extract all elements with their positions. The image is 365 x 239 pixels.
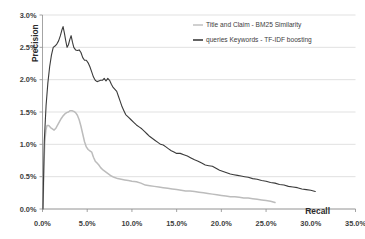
axes-group — [40, 15, 356, 212]
series-line-1 — [43, 27, 315, 209]
y-tick-label-4: 2.0% — [20, 75, 37, 84]
x-tick-labels-group: 0.0%5.0%10.0%15.0%20.0%25.0%30.0%35.0% — [34, 219, 365, 228]
legend-label-0: Title and Claim - BM25 Similarity — [206, 21, 302, 29]
series-group — [43, 27, 315, 209]
x-tick-label-6: 30.0% — [300, 219, 321, 228]
legend-label-1: queries Keywords - TF-IDF boosting — [206, 36, 312, 44]
y-tick-label-6: 3.0% — [20, 11, 37, 20]
y-axis-title: Precision — [30, 24, 40, 62]
x-axis-title: Recall — [305, 206, 330, 216]
precision-recall-chart: 0.0%0.5%1.0%1.5%2.0%2.5%3.0% 0.0%5.0%10.… — [0, 0, 365, 239]
x-tick-label-5: 25.0% — [256, 219, 277, 228]
x-tick-label-4: 20.0% — [211, 219, 232, 228]
x-tick-label-3: 15.0% — [166, 219, 187, 228]
legend: Title and Claim - BM25 Similarityqueries… — [193, 21, 312, 44]
y-tick-label-2: 1.0% — [20, 140, 37, 149]
x-tick-label-7: 35.0% — [345, 219, 365, 228]
chart-canvas: 0.0%0.5%1.0%1.5%2.0%2.5%3.0% 0.0%5.0%10.… — [0, 0, 365, 239]
x-tick-label-2: 10.0% — [121, 219, 142, 228]
gridlines-group — [43, 15, 356, 209]
x-tick-label-0: 0.0% — [34, 219, 51, 228]
series-line-0 — [43, 111, 275, 209]
y-tick-label-0: 0.0% — [20, 205, 37, 214]
y-tick-label-3: 1.5% — [20, 108, 37, 117]
x-tick-label-1: 5.0% — [79, 219, 96, 228]
y-tick-label-1: 0.5% — [20, 172, 37, 181]
